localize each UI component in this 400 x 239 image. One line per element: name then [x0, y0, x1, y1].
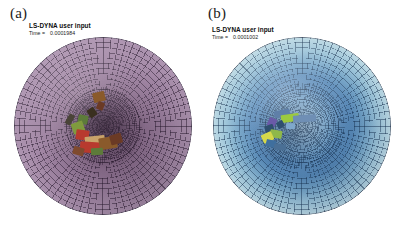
panel-b-time-value: 0.0001002 — [233, 34, 258, 40]
panel-a-mesh-rim — [14, 37, 192, 215]
panel-b-hud-time: Time =0.0001002 — [212, 35, 274, 41]
panel-a-hud-title: LS-DYNA user input — [29, 22, 91, 29]
panel-a-hud-time: Time =0.0001984 — [29, 31, 91, 37]
panel-b-mesh-disc — [213, 37, 391, 215]
panel-a: (a) LS-DYNA user input Time =0.0001984 — [0, 0, 200, 239]
panel-b-mesh-rim — [213, 37, 391, 215]
panel-b-hud-title: LS-DYNA user input — [212, 26, 274, 33]
panel-b-hud: LS-DYNA user input Time =0.0001002 — [212, 26, 274, 41]
panel-a-time-label: Time = — [29, 30, 45, 36]
panel-a-time-value: 0.0001984 — [50, 30, 75, 36]
panel-b-time-label: Time = — [212, 34, 228, 40]
panel-b: (b) LS-DYNA user input Time =0.0001002 — [200, 0, 400, 239]
panel-a-letter: (a) — [10, 6, 27, 21]
panel-a-hud: LS-DYNA user input Time =0.0001984 — [29, 22, 91, 37]
figure-container: (a) LS-DYNA user input Time =0.0001984 — [0, 0, 400, 239]
panel-a-mesh-disc — [14, 37, 192, 215]
panel-b-letter: (b) — [208, 6, 226, 21]
